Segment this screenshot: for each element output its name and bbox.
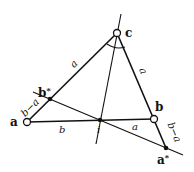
segment-label-ca: a bbox=[68, 58, 80, 70]
vertex-c-marker bbox=[114, 30, 121, 37]
segment-label-b-astar: b−a bbox=[165, 120, 183, 143]
label-i: i bbox=[97, 124, 100, 135]
vertex-a-marker bbox=[24, 119, 31, 126]
point-i-marker bbox=[98, 118, 102, 122]
vertex-b-marker bbox=[151, 116, 158, 123]
point-astar-marker bbox=[164, 146, 169, 151]
point-bstar-marker bbox=[48, 97, 53, 102]
label-c: c bbox=[125, 26, 132, 40]
label-b: b bbox=[155, 100, 163, 114]
geometry-diagram: a b c b* a* i a a b−a b a b−a bbox=[0, 0, 194, 172]
segment-label-a-i: b bbox=[59, 124, 65, 135]
segment-label-i-b: a bbox=[132, 121, 138, 132]
label-a: a bbox=[10, 115, 18, 129]
label-astar: a* bbox=[157, 152, 170, 167]
segment-label-cb: a bbox=[137, 66, 149, 76]
